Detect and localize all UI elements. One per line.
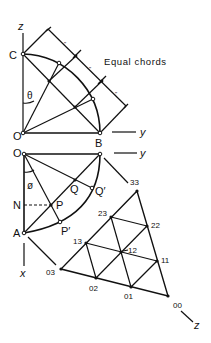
point-c	[21, 52, 25, 56]
point-top-right	[98, 152, 102, 156]
grid-label-02: 02	[89, 284, 98, 293]
grid-label-01: 01	[124, 292, 133, 301]
connector-z	[181, 311, 193, 322]
label-p-prime: P′	[61, 225, 70, 237]
connector-bottom	[28, 237, 56, 265]
grid-diag-2	[131, 261, 157, 287]
point-chord-1	[47, 79, 50, 82]
caption-equal-chords: Equal chords	[104, 56, 167, 67]
point-dim-1	[75, 55, 78, 58]
extension-line-c	[23, 29, 48, 54]
grid-point-01	[129, 285, 132, 288]
point-arc-2	[91, 97, 95, 101]
point-arc-1	[57, 61, 61, 65]
point-dim-2	[101, 80, 104, 83]
phi-arc	[24, 170, 34, 172]
grid-point-13	[84, 241, 87, 244]
label-q: Q	[70, 183, 79, 195]
grid-point-11	[155, 259, 158, 262]
label-z-top: z	[17, 20, 24, 32]
label-x: x	[19, 267, 26, 279]
grid-label-33: 33	[130, 178, 139, 187]
point-q-prime	[90, 186, 94, 190]
grid-point-12	[119, 250, 122, 253]
label-b: B	[95, 137, 102, 149]
label-z-bottom: z	[193, 319, 200, 331]
label-theta: θ	[27, 90, 33, 101]
grid-point-22	[145, 224, 148, 227]
theta-arc	[23, 101, 34, 103]
label-y-bottom: y	[139, 147, 147, 159]
point-p-prime	[58, 220, 62, 224]
point-p	[49, 203, 52, 206]
point-q	[73, 178, 76, 181]
extension-line-b	[100, 106, 126, 133]
grid-label-12: 12	[128, 246, 137, 255]
connector-top	[104, 158, 128, 183]
label-p: P	[56, 199, 63, 211]
dim-mark-3: "	[115, 91, 117, 97]
diagram-canvas: z C O B y θ Equal chords " " " O y ø N A…	[0, 0, 211, 343]
point-b	[98, 131, 102, 135]
label-o-bottom: O	[13, 147, 22, 159]
point-a	[22, 231, 26, 235]
point-o-bottom	[22, 152, 26, 156]
grid-point-33	[135, 189, 138, 192]
label-a: A	[13, 227, 21, 239]
dim-mark-2: "	[89, 66, 91, 72]
label-o-top: O	[13, 130, 22, 142]
grid-point-23	[109, 215, 112, 218]
grid-point-03	[59, 267, 62, 270]
label-c: C	[9, 49, 17, 61]
label-y-top: y	[139, 126, 147, 138]
label-q-prime: Q′	[95, 185, 106, 197]
label-n: N	[13, 199, 21, 211]
grid-label-00: 00	[173, 301, 182, 310]
dim-mark-1: "	[64, 41, 66, 47]
point-chord-2	[73, 105, 76, 108]
grid-label-23: 23	[98, 209, 107, 218]
grid-point-02	[94, 276, 97, 279]
grid-row-1	[111, 217, 147, 226]
grid-point-00	[166, 294, 169, 297]
extension-line-2	[75, 81, 102, 107]
grid-label-03: 03	[46, 268, 55, 277]
point-o-top	[21, 131, 25, 135]
grid-col-1	[86, 243, 96, 278]
label-phi: ø	[27, 180, 33, 191]
grid-label-22: 22	[151, 221, 160, 230]
line-o-qprime	[24, 154, 92, 188]
grid-label-11: 11	[161, 256, 170, 265]
grid-label-13: 13	[73, 237, 82, 246]
radial-line-2	[23, 99, 93, 133]
